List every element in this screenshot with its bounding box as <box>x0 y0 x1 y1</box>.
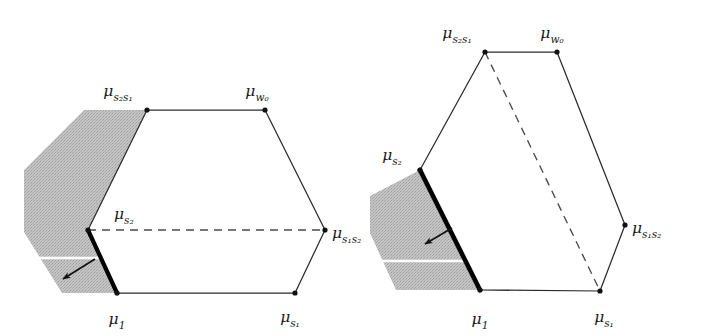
label-mu-1: μ1 <box>109 310 126 331</box>
right-polytope: μs₂s₁μw₀μs₁s₂μs₁μ1μs₂ <box>370 24 661 331</box>
vertex-dot-mu-1 <box>477 287 482 292</box>
vertex-dot-mu-s2 <box>417 167 422 172</box>
label-mu-1: μ1 <box>472 310 489 331</box>
label-mu-s1: μs₁ <box>594 308 614 329</box>
label-mu-w0: μw₀ <box>540 24 564 45</box>
label-mu-s1s2: μs₁s₂ <box>632 219 661 240</box>
vertex-dot-mu-s2s1 <box>144 107 149 112</box>
label-mu-s2s1: μs₂s₁ <box>442 24 471 45</box>
vertex-dot-mu-s1 <box>292 290 297 295</box>
figure-canvas: μs₂s₁μw₀μs₁s₂μs₁μ1μs₂ μs₂s₁μw₀μs₁s₂μs₁μ1… <box>0 0 713 336</box>
label-mu-s2: μs₂ <box>114 205 134 226</box>
vertex-dot-mu-s1s2 <box>622 222 627 227</box>
dashed-wall-line <box>485 52 600 291</box>
vertex-dot-mu-w0 <box>554 49 559 54</box>
left-polytope: μs₂s₁μw₀μs₁s₂μs₁μ1μs₂ <box>24 82 361 331</box>
label-mu-s2: μs₂ <box>382 146 402 167</box>
label-mu-s1: μs₁ <box>280 308 300 329</box>
label-mu-w0: μw₀ <box>245 82 269 103</box>
vertex-dot-mu-s2 <box>85 227 90 232</box>
label-mu-s2s1: μs₂s₁ <box>103 82 132 103</box>
vertex-dot-mu-s1 <box>597 288 602 293</box>
vertex-dot-mu-w0 <box>262 107 267 112</box>
label-mu-s1s2: μs₁s₂ <box>332 224 361 245</box>
vertex-dot-mu-s1s2 <box>322 227 327 232</box>
vertex-dot-mu-s2s1 <box>482 49 487 54</box>
shaded-cone-region <box>370 170 480 290</box>
vertex-dot-mu-1 <box>114 290 119 295</box>
diagram-svg: μs₂s₁μw₀μs₁s₂μs₁μ1μs₂ μs₂s₁μw₀μs₁s₂μs₁μ1… <box>0 0 713 336</box>
